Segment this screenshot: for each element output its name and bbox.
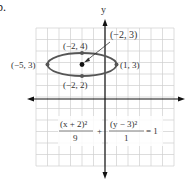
equation-numerator-2: (y − 3)² bbox=[110, 119, 138, 129]
covertex-bottom-label: (−2, 2) bbox=[63, 80, 88, 90]
y-axis-label: y bbox=[101, 4, 106, 15]
x-axis-left-arrow-icon bbox=[27, 97, 34, 102]
equation-denominator-1: 9 bbox=[73, 133, 78, 143]
vertex-right-label: (1, 3) bbox=[120, 60, 140, 70]
equation-plus: + bbox=[97, 126, 102, 136]
equation: (x + 2)² 9 + (y − 3)² 1 = 1 bbox=[58, 116, 163, 146]
center-pointer-line bbox=[86, 42, 110, 61]
vertex-right-point bbox=[115, 63, 119, 67]
covertex-bottom-point bbox=[80, 74, 84, 78]
equation-rhs: = 1 bbox=[146, 126, 158, 136]
covertex-top-label: (−2, 4) bbox=[63, 41, 88, 51]
covertex-top-point bbox=[80, 51, 84, 55]
x-axis-right-arrow-icon bbox=[178, 97, 185, 102]
y-axis-down-arrow-icon bbox=[103, 172, 108, 179]
graph: y (−2, 3) (−2, 4) (−2, 2) (−5, 3) (1, 3)… bbox=[0, 0, 188, 184]
vertex-left-point bbox=[46, 63, 50, 67]
vertex-left-label: (−5, 3) bbox=[11, 60, 36, 70]
center-point bbox=[80, 62, 85, 67]
equation-denominator-2: 1 bbox=[124, 133, 129, 143]
center-label: (−2, 3) bbox=[110, 29, 137, 41]
y-axis-up-arrow-icon bbox=[103, 19, 108, 26]
equation-numerator-1: (x + 2)² bbox=[60, 119, 88, 129]
